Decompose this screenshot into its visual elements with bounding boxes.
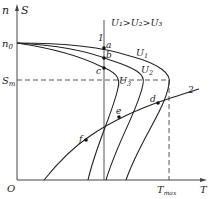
voltage-relation: U₁>U₂>U₃ (111, 17, 163, 28)
x-axis-arrow-icon (200, 178, 207, 182)
y-label-n: n (2, 4, 9, 17)
guide-lines (17, 80, 169, 180)
point-f-label: f (78, 134, 84, 144)
axes (15, 4, 207, 182)
curve-u2 (17, 43, 143, 180)
point-d-label: d (150, 94, 156, 104)
point-c-label: c (96, 66, 101, 76)
tmax-label: Tmax (157, 184, 177, 196)
point-e-label: e (116, 106, 121, 116)
origin-label: O (7, 183, 15, 194)
x-label-t: T (200, 184, 208, 195)
point-d (156, 101, 160, 105)
u2-label: U2 (141, 64, 153, 77)
line-1-label: 1 (98, 33, 104, 43)
intersection-points (84, 46, 160, 142)
load-line-2 (44, 89, 199, 180)
y-axis-arrow-icon (15, 4, 19, 11)
point-f (84, 138, 88, 142)
line-2-label: 2 (187, 85, 194, 95)
point-a-label: a (106, 40, 111, 50)
torque-speed-diagram: n S n0 Sm O Tmax T U₁>U₂>U₃ 1 2 U1 U2 U3… (0, 0, 213, 199)
y-label-s: S (21, 4, 29, 17)
point-c (102, 66, 106, 70)
u3-label: U3 (119, 75, 131, 88)
n0-label: n0 (2, 38, 13, 51)
voltage-curves (17, 43, 199, 180)
sm-label: Sm (2, 75, 16, 88)
point-b-label: b (106, 50, 112, 60)
